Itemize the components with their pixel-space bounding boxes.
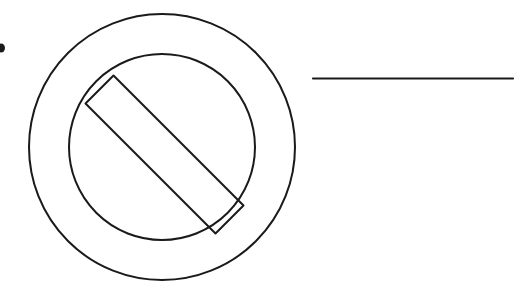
canvas-background — [0, 0, 522, 301]
no-symbol-figure — [0, 0, 522, 301]
drawing-canvas — [0, 0, 522, 301]
